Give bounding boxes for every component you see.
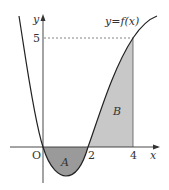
function-label: y=f(x) [104,15,139,28]
y-tick-5: 5 [33,32,40,45]
x-axis-label: x [150,149,157,162]
region-a-label: A [60,156,69,169]
region-b-label: B [112,105,121,118]
region-b [88,38,133,147]
origin-label: O [32,149,41,162]
x-tick-4: 4 [130,149,137,162]
x-tick-2: 2 [88,149,95,162]
y-axis-arrow-icon [41,14,46,21]
y-axis-label: y [32,13,40,26]
function-graph: y=f(x) y 5 O 2 4 x A B [0,0,169,190]
